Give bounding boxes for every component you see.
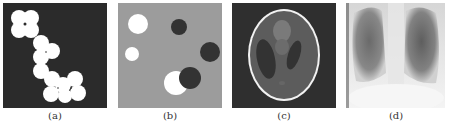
- caption-a: (a): [25, 110, 85, 121]
- panel-d-chest-xray: [346, 3, 445, 108]
- panel-c-phantom: [232, 3, 336, 108]
- chest-xray-image: [346, 3, 445, 108]
- caption-c: (c): [254, 110, 314, 121]
- panel-b-gray-disks: [118, 3, 222, 108]
- gray-disks-image: [118, 3, 222, 108]
- caption-b: (b): [140, 110, 200, 121]
- shepp-logan-phantom-image: [232, 3, 336, 108]
- caption-d: (d): [366, 110, 426, 121]
- panel-a-binary-disks: [3, 3, 107, 108]
- binary-disks-image: [3, 3, 107, 108]
